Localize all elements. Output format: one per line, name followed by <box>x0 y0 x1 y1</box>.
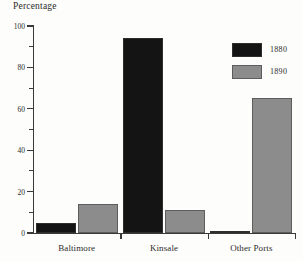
x-axis-tick <box>295 233 296 239</box>
plot-area <box>33 26 295 233</box>
bar-baltimore-1890 <box>78 204 118 233</box>
x-axis-tick <box>120 233 121 239</box>
x-axis-category-label: Other Ports <box>230 243 272 253</box>
x-axis-line <box>33 233 295 234</box>
legend-label-1890: 1890 <box>270 67 287 76</box>
y-axis-tick-label: 20 <box>0 187 25 196</box>
bar-baltimore-1880 <box>36 223 76 233</box>
bar-other-ports-1890 <box>252 98 292 233</box>
y-axis-tick-label: 100 <box>0 22 25 31</box>
y-axis-tick-label: 60 <box>0 104 25 113</box>
x-axis-category-label: Kinsale <box>150 243 178 253</box>
legend-label-1880: 1880 <box>270 45 287 54</box>
legend-swatch-1890 <box>232 65 262 79</box>
y-axis-tick-label: 0 <box>0 229 25 238</box>
bar-kinsale-1890 <box>165 210 205 233</box>
y-axis-tick-label: 40 <box>0 146 25 155</box>
y-axis-tick-label: 80 <box>0 63 25 72</box>
bar-chart: Percentage 020406080100 BaltimoreKinsale… <box>0 0 303 261</box>
bar-other-ports-1880 <box>210 231 250 233</box>
y-axis-title: Percentage <box>13 1 57 11</box>
legend-swatch-1880 <box>232 43 262 57</box>
x-axis-category-label: Baltimore <box>58 243 95 253</box>
x-axis-tick <box>208 233 209 239</box>
bar-kinsale-1880 <box>123 38 163 233</box>
